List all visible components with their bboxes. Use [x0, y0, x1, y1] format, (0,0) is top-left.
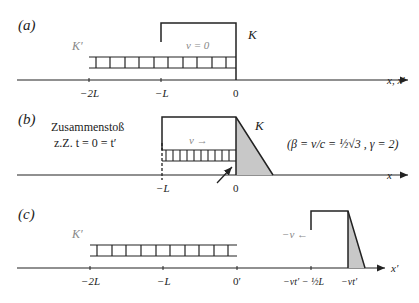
tick-c-box-right: −vt′ [341, 276, 358, 287]
collision-note-line2: z.Z. t = 0 = t′ [54, 136, 117, 150]
frame-k-box [161, 23, 236, 80]
panel-label-b: (b) [18, 111, 36, 128]
rod-k-prime-c [90, 245, 237, 256]
panel-label-a: (a) [18, 17, 36, 34]
tick-b-zero: 0 [233, 182, 239, 194]
beta-gamma-formula: (β = v/c = ½√3 , γ = 2) [287, 137, 399, 151]
axis-label-b: x [386, 169, 392, 181]
axis-label-c: x′ [390, 262, 399, 274]
rod-label-k-prime-c: K′ [71, 227, 83, 241]
panel-label-c: (c) [18, 206, 35, 223]
tick-b-negl: −L [156, 182, 170, 194]
panel-b: (b) Zusammenstoß z.Z. t = 0 = t′ v → K (… [17, 111, 408, 194]
rod-k-prime [89, 57, 236, 68]
panel-a: (a) K′ v = 0 K x, x′ −2L −L 0 [17, 17, 408, 99]
tick-c-zero-prime: 0′ [233, 275, 241, 287]
relativity-diagram: (a) K′ v = 0 K x, x′ −2L −L 0 [0, 0, 419, 303]
collision-note-line1: Zusammenstoß [51, 120, 124, 134]
tick-a-zero: 0 [233, 87, 239, 99]
velocity-label-c: −v ← [282, 228, 308, 240]
tick-a-negl: −L [155, 87, 169, 99]
tick-c-neg2l: −2L [81, 275, 100, 287]
box-label-k-b: K [254, 118, 265, 133]
velocity-label-a: v = 0 [186, 39, 210, 51]
tick-a-neg2l: −2L [80, 87, 99, 99]
velocity-label-b: v → [189, 134, 208, 146]
tick-c-negl: −L [157, 275, 171, 287]
box-label-k: K [247, 27, 258, 42]
panel-c: (c) K′ −v ← x′ −2L −L 0′ −vt′ − ½L −vt′ [17, 206, 399, 287]
rod-k-prime-compressed [162, 150, 236, 161]
rod-label-k-prime: K′ [71, 39, 83, 53]
axis-label-a: x, x′ [386, 74, 405, 86]
tick-c-box-left: −vt′ − ½L [283, 276, 324, 287]
